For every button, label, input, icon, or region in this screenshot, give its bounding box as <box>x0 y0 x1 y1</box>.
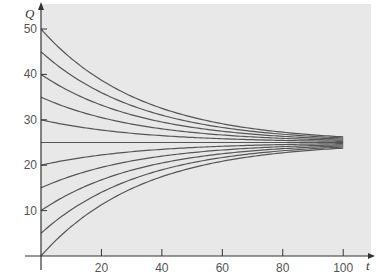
y-tick-label: 20 <box>24 158 38 172</box>
y-axis-label: Q <box>25 6 35 21</box>
plot-background <box>41 4 371 256</box>
y-tick-label: 50 <box>24 22 38 36</box>
y-tick-label: 40 <box>24 67 38 81</box>
y-tick-label: 10 <box>24 204 38 218</box>
y-tick-label: 30 <box>24 113 38 127</box>
x-axis-label: t <box>366 258 370 273</box>
x-tick-label: 80 <box>276 261 290 275</box>
x-tick-label: 20 <box>95 261 109 275</box>
x-tick-label: 100 <box>333 261 353 275</box>
solution-curves-chart: 102030405020406080100 Q t <box>0 0 377 277</box>
x-tick-label: 40 <box>155 261 169 275</box>
x-tick-label: 60 <box>216 261 230 275</box>
